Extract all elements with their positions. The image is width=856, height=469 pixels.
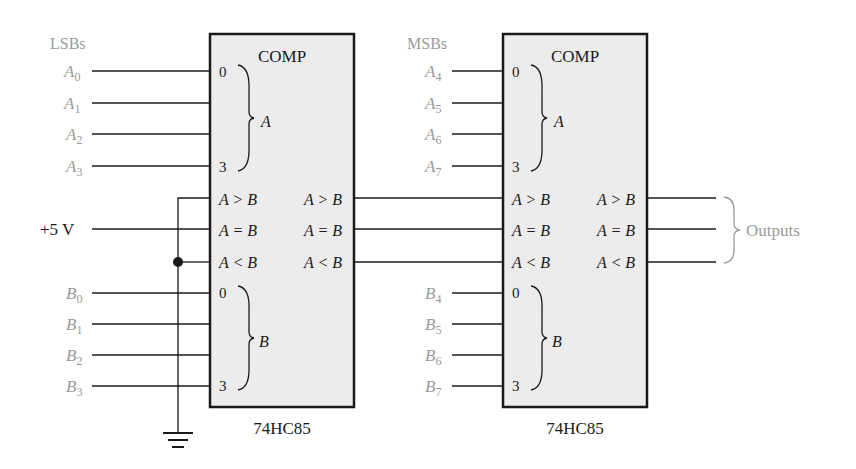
chip-2-a-input-labels: A4 A5 A6 A7	[424, 62, 441, 179]
svg-text:A6: A6	[424, 125, 441, 147]
chip-2-part-number: 74HC85	[546, 419, 604, 438]
chip-1-cascade-eq: A = B	[218, 222, 257, 239]
msbs-label: MSBs	[407, 35, 447, 52]
svg-text:A1: A1	[63, 94, 80, 116]
cascaded-comparator-diagram: COMP 0 3 A A > B A = B A < B A > B A = B…	[0, 0, 856, 469]
cascade-wires	[354, 198, 503, 262]
chip-1-inputs	[92, 71, 210, 432]
chip-2-a-pin0: 0	[512, 64, 520, 80]
lsbs-label: LSBs	[50, 35, 86, 52]
chip-1-b-input-labels: B0 B1 B2 B3	[66, 284, 82, 399]
wire-cascade-gt-ground	[178, 198, 210, 432]
chip-2-b-pin0: 0	[512, 285, 520, 301]
svg-text:A4: A4	[424, 62, 441, 84]
svg-text:A2: A2	[65, 125, 82, 147]
chip-2-b-input-labels: B4 B5 B6 B7	[425, 284, 441, 399]
svg-text:A7: A7	[424, 157, 441, 179]
svg-text:B1: B1	[66, 315, 82, 337]
chip-1-title: COMP	[258, 47, 306, 66]
chip-1-output-gt: A > B	[303, 191, 342, 208]
ground-icon	[163, 433, 193, 447]
chip-1: COMP 0 3 A A > B A = B A < B A > B A = B…	[210, 34, 354, 438]
chip-2-a-pin3: 3	[512, 159, 520, 175]
chip-2-cascade-gt: A > B	[511, 191, 550, 208]
svg-text:A5: A5	[424, 94, 441, 116]
svg-text:B2: B2	[66, 346, 82, 368]
chip-1-b-group-label: B	[259, 333, 269, 350]
chip-2-output-eq: A = B	[596, 222, 635, 239]
supply-label: +5 V	[40, 220, 75, 239]
svg-text:B3: B3	[66, 377, 82, 399]
chip-2-body	[503, 34, 647, 407]
chip-2-b-pin3: 3	[512, 378, 520, 394]
chip-1-a-pin0: 0	[219, 64, 227, 80]
chip-1-cascade-gt: A > B	[218, 191, 257, 208]
chip-1-a-group-label: A	[260, 113, 271, 130]
svg-text:B7: B7	[425, 377, 441, 399]
outputs-brace	[724, 197, 740, 263]
diagram-canvas: COMP 0 3 A A > B A = B A < B A > B A = B…	[0, 0, 856, 469]
svg-text:B4: B4	[425, 284, 441, 306]
svg-text:B6: B6	[425, 346, 441, 368]
chip-2-a-group-label: A	[553, 113, 564, 130]
chip-2-cascade-eq: A = B	[511, 222, 550, 239]
outputs-label: Outputs	[746, 221, 800, 240]
chip-1-output-lt: A < B	[303, 254, 342, 271]
svg-text:B0: B0	[66, 284, 82, 306]
svg-text:B5: B5	[425, 315, 441, 337]
junction-dot	[173, 257, 183, 267]
chip-1-cascade-lt: A < B	[218, 254, 257, 271]
chip-1-part-number: 74HC85	[253, 419, 311, 438]
output-wires	[647, 198, 716, 262]
chip-1-a-pin3: 3	[219, 159, 227, 175]
chip-1-b-pin3: 3	[219, 378, 227, 394]
chip-2-output-gt: A > B	[596, 191, 635, 208]
svg-text:A0: A0	[63, 62, 80, 84]
svg-text:A3: A3	[65, 157, 82, 179]
chip-2-output-lt: A < B	[596, 254, 635, 271]
chip-1-a-input-labels: A0 A1 A2 A3	[63, 62, 82, 179]
chip-2-cascade-lt: A < B	[511, 254, 550, 271]
chip-1-body	[210, 34, 354, 407]
chip-2-title: COMP	[551, 47, 599, 66]
chip-2: COMP 0 3 A A > B A = B A < B A > B A = B…	[503, 34, 647, 438]
chip-1-b-pin0: 0	[219, 285, 227, 301]
chip-2-b-group-label: B	[552, 333, 562, 350]
chip-1-output-eq: A = B	[303, 222, 342, 239]
